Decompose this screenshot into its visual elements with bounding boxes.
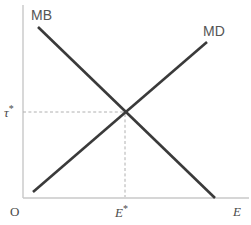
md-curve-label: MD (203, 24, 225, 38)
tau-star-asterisk: * (9, 103, 14, 114)
e-star-asterisk: * (123, 203, 128, 214)
tau-star-axis-label: τ* (4, 104, 14, 119)
md-curve (33, 42, 207, 192)
x-axis-label: E (233, 205, 241, 218)
e-star-axis-label: E* (115, 204, 128, 219)
e-star-symbol: E (115, 205, 123, 220)
origin-label: O (10, 205, 19, 218)
mb-md-diagram: MB MD τ* O E* E (0, 0, 251, 225)
mb-curve-label: MB (31, 8, 52, 22)
